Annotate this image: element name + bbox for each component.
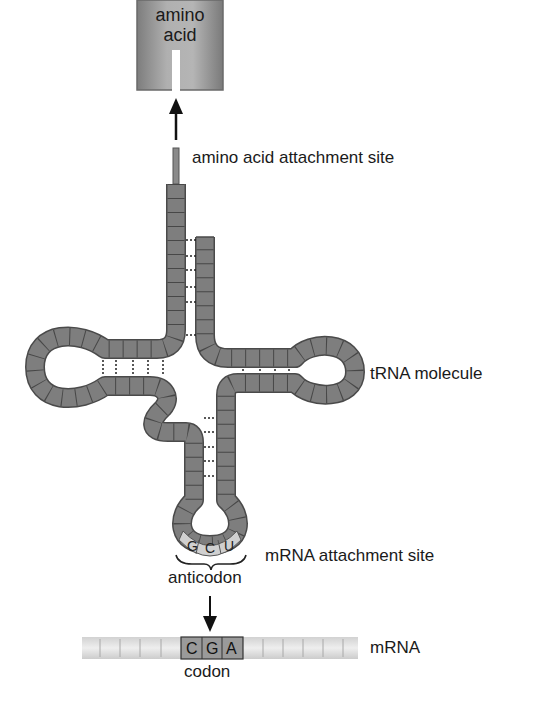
- amino-acid-label-line2: acid: [137, 25, 223, 45]
- trna-molecule-label: tRNA molecule: [370, 364, 482, 384]
- arrow-up-icon: [169, 98, 183, 140]
- trna-strand: [35, 184, 355, 545]
- anticodon-base-3: U: [224, 538, 234, 554]
- anticodon-base-2: C: [205, 540, 215, 556]
- anticodon-base-1: G: [187, 538, 198, 554]
- codon-box: C G A: [181, 637, 243, 659]
- codon-base-1: C: [186, 640, 198, 657]
- attachment-site-stub: [173, 148, 179, 184]
- trna-diagram: G C U C G A: [0, 0, 544, 718]
- anticodon-label: anticodon: [168, 568, 242, 588]
- arrow-down-icon: [203, 596, 217, 632]
- mrna-label: mRNA: [370, 638, 420, 658]
- codon-label: codon: [184, 662, 230, 682]
- codon-base-3: A: [226, 640, 237, 657]
- mrna-strand: C G A: [82, 637, 358, 659]
- attachment-site-label: amino acid attachment site: [192, 148, 394, 168]
- mrna-attachment-site-label: mRNA attachment site: [265, 546, 434, 566]
- codon-base-2: G: [206, 640, 218, 657]
- amino-acid-label-line1: amino: [137, 5, 223, 25]
